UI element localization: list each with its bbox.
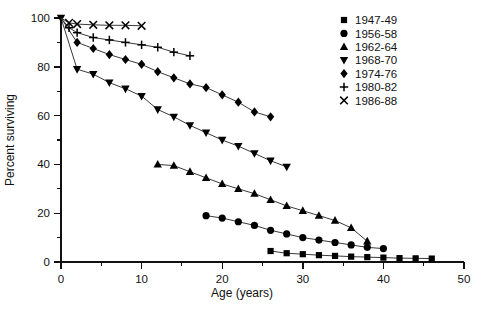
marker-diamond-1974-76 — [202, 83, 209, 92]
marker-square-1947-49 — [284, 250, 290, 256]
marker-triangle-up-legend-1962-64 — [340, 42, 348, 50]
series-line-1980-82 — [61, 18, 190, 56]
marker-cross-legend-1986-88 — [340, 97, 348, 105]
marker-plus-1980-82 — [105, 36, 113, 44]
marker-triangle-up-1962-64 — [347, 223, 355, 231]
plot-area: 01020304050020406080100 1947-491956-5819… — [0, 0, 485, 311]
marker-square-1947-49 — [316, 252, 322, 258]
x-tick-label: 20 — [216, 273, 229, 285]
marker-diamond-1974-76 — [90, 44, 97, 53]
legend[interactable]: 1947-491956-581962-641968-701974-761980-… — [340, 14, 398, 106]
marker-diamond-1974-76 — [106, 50, 113, 59]
series-line-1968-70 — [61, 18, 287, 167]
marker-square-1947-49 — [396, 255, 402, 261]
marker-circle-1956-58 — [235, 218, 242, 225]
marker-square-1947-49 — [429, 255, 435, 261]
y-axis-title: Percent surviving — [3, 94, 17, 186]
marker-square-1947-49 — [300, 251, 306, 257]
marker-diamond-1974-76 — [251, 107, 258, 116]
series-1947-49 — [267, 248, 434, 262]
marker-triangle-down-1968-70 — [283, 164, 291, 172]
marker-diamond-1974-76 — [154, 67, 161, 76]
marker-plus-legend-1980-82 — [340, 83, 348, 91]
legend-label-1956-58: 1956-58 — [355, 28, 397, 40]
x-axis-title: Age (years) — [211, 286, 273, 300]
marker-triangle-down-1968-70 — [250, 150, 258, 158]
y-tick-label: 40 — [37, 158, 50, 170]
marker-diamond-1974-76 — [219, 90, 226, 99]
marker-circle-1956-58 — [299, 234, 306, 241]
marker-circle-1956-58 — [251, 222, 258, 229]
marker-triangle-down-1968-70 — [137, 93, 145, 101]
marker-triangle-down-1968-70 — [154, 106, 162, 114]
legend-item-1947-49[interactable]: 1947-49 — [341, 14, 397, 26]
marker-diamond-1974-76 — [235, 98, 242, 107]
series-1986-88 — [61, 18, 145, 30]
legend-item-1956-58[interactable]: 1956-58 — [340, 28, 397, 40]
marker-circle-legend-1956-58 — [340, 30, 347, 37]
marker-diamond-1974-76 — [186, 79, 193, 88]
legend-item-1968-70[interactable]: 1968-70 — [340, 54, 397, 66]
marker-circle-1956-58 — [219, 214, 226, 221]
marker-circle-1956-58 — [267, 227, 274, 234]
y-tick-label: 0 — [44, 256, 50, 268]
y-tick-label: 60 — [37, 110, 50, 122]
legend-label-1968-70: 1968-70 — [355, 54, 397, 66]
marker-circle-1956-58 — [348, 241, 355, 248]
marker-plus-1980-82 — [154, 43, 162, 51]
marker-triangle-down-legend-1968-70 — [340, 57, 348, 65]
survival-curve-chart: 01020304050020406080100 1947-491956-5819… — [0, 0, 485, 311]
legend-label-1974-76: 1974-76 — [355, 68, 397, 80]
marker-triangle-down-1968-70 — [89, 71, 97, 79]
y-tick-label: 100 — [31, 12, 50, 24]
marker-square-1947-49 — [332, 253, 338, 259]
marker-diamond-1974-76 — [267, 112, 274, 121]
legend-label-1962-64: 1962-64 — [355, 41, 398, 53]
marker-diamond-1974-76 — [170, 73, 177, 82]
marker-triangle-down-1968-70 — [186, 122, 194, 130]
x-tick-label: 50 — [458, 273, 471, 285]
legend-item-1986-88[interactable]: 1986-88 — [340, 95, 397, 107]
marker-square-1947-49 — [364, 254, 370, 260]
legend-item-1974-76[interactable]: 1974-76 — [340, 68, 397, 80]
y-tick-label: 80 — [37, 61, 50, 73]
marker-square-1947-49 — [267, 248, 273, 254]
legend-label-1986-88: 1986-88 — [355, 95, 397, 107]
legend-item-1962-64[interactable]: 1962-64 — [340, 41, 398, 53]
marker-square-1947-49 — [348, 254, 354, 260]
marker-square-legend-1947-49 — [341, 17, 347, 23]
marker-plus-1980-82 — [186, 52, 194, 60]
legend-label-1947-49: 1947-49 — [355, 14, 397, 26]
axes — [61, 16, 464, 262]
marker-diamond-1974-76 — [138, 60, 145, 69]
marker-circle-1956-58 — [331, 239, 338, 246]
marker-circle-1956-58 — [364, 244, 371, 251]
marker-circle-1956-58 — [315, 236, 322, 243]
marker-triangle-down-1968-70 — [121, 86, 129, 94]
legend-item-1980-82[interactable]: 1980-82 — [340, 81, 397, 93]
legend-label-1980-82: 1980-82 — [355, 81, 397, 93]
marker-triangle-down-1968-70 — [170, 114, 178, 122]
marker-square-1947-49 — [380, 255, 386, 261]
marker-triangle-up-1962-64 — [154, 160, 162, 168]
marker-triangle-down-1968-70 — [202, 130, 210, 138]
marker-diamond-legend-1974-76 — [340, 69, 347, 78]
marker-square-1947-49 — [413, 255, 419, 261]
marker-triangle-down-1968-70 — [234, 143, 242, 151]
marker-triangle-up-1962-64 — [363, 237, 371, 245]
marker-plus-1980-82 — [170, 48, 178, 56]
x-tick-label: 30 — [296, 273, 309, 285]
marker-circle-1956-58 — [283, 230, 290, 237]
axis-ticks — [54, 18, 464, 269]
series-1968-70 — [57, 15, 291, 171]
series-1962-64 — [154, 160, 372, 244]
marker-circle-1956-58 — [380, 245, 387, 252]
x-tick-label: 10 — [135, 273, 148, 285]
series-1956-58 — [202, 212, 387, 252]
x-tick-label: 40 — [377, 273, 390, 285]
y-tick-label: 20 — [37, 207, 50, 219]
marker-diamond-1974-76 — [122, 55, 129, 64]
axis-tick-labels: 01020304050020406080100 — [31, 12, 471, 285]
x-tick-label: 0 — [58, 273, 64, 285]
marker-plus-1980-82 — [121, 38, 129, 46]
